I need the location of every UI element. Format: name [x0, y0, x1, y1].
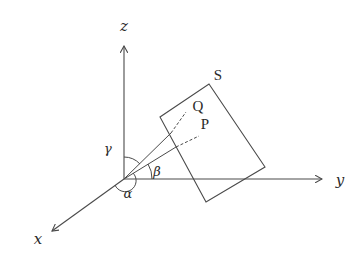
labels: z y x S Q P γ β α: [34, 17, 345, 248]
plane-label: S: [214, 67, 222, 83]
angle-alpha-label: α: [124, 186, 133, 201]
angle-arcs: [115, 157, 152, 192]
y-axis-label: y: [335, 171, 345, 189]
point-p-label: P: [201, 116, 209, 132]
coordinate-diagram: z y x S Q P γ β α: [0, 0, 361, 258]
ray-oq-dashed: [171, 112, 186, 133]
ray-op-solid: [124, 147, 176, 179]
axes: [52, 46, 322, 231]
z-axis-label: z: [119, 17, 128, 35]
x-axis: [52, 179, 124, 231]
angle-gamma-label: γ: [104, 141, 112, 156]
ray-oq-solid: [124, 133, 171, 179]
point-q-label: Q: [193, 98, 204, 114]
angle-gamma-arc: [124, 157, 140, 164]
angle-beta-arc: [148, 164, 152, 179]
plane-s: [160, 84, 265, 202]
angle-beta-label: β: [152, 164, 161, 179]
ray-op-dashed: [176, 136, 199, 147]
x-axis-label: x: [34, 230, 43, 248]
